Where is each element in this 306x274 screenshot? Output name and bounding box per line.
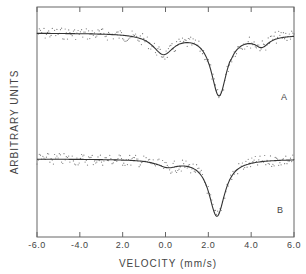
fit-curve-b: [37, 159, 294, 216]
x-axis-label: VELOCITY (mm/s): [0, 258, 306, 269]
x-tick-label: -6.0: [28, 240, 46, 250]
fit-curve-a: [37, 33, 294, 96]
series-label-a: A: [281, 92, 287, 102]
plot-area: [0, 0, 306, 274]
x-tick-label: 2.0: [201, 240, 215, 250]
plot-frame: [37, 7, 294, 237]
x-tick-label: 0.0: [158, 240, 172, 250]
series-label-b: B: [277, 205, 283, 215]
x-tick-label: 2.0: [116, 240, 130, 250]
x-tick-label: 4.0: [244, 240, 258, 250]
x-tick-label: 6.0: [287, 240, 301, 250]
data-points: [36, 28, 294, 215]
x-tick-label: -4.0: [71, 240, 89, 250]
x-ticks: [37, 7, 294, 237]
y-axis-label: ARBITRARY UNITS: [9, 70, 20, 175]
